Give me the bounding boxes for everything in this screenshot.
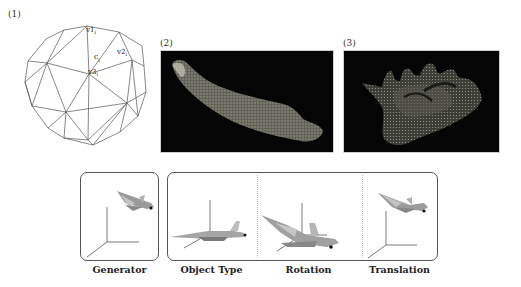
generator-box <box>80 172 159 261</box>
bone-point-cloud <box>161 51 334 153</box>
generator-plane-with-axes <box>81 173 160 262</box>
geodesic-sphere-mesh <box>20 20 152 152</box>
center-label-c: ci <box>94 52 100 63</box>
scan-point-cloud <box>344 51 500 153</box>
caption-object-type: Object Type <box>167 264 256 275</box>
vertex-label-v1: v1i <box>86 26 96 35</box>
caption-translation: Translation <box>361 264 438 275</box>
vertex-label-v2: v2i <box>117 48 127 57</box>
panel-3-label: (3) <box>343 38 356 48</box>
caption-generator: Generator <box>80 264 159 275</box>
scan-panel <box>343 50 500 153</box>
caption-rotation: Rotation <box>256 264 361 275</box>
vertex-label-v3: v3i <box>88 68 98 77</box>
translation-plane-with-axes <box>362 173 439 262</box>
transform-box <box>167 172 438 261</box>
object-type-plane-with-axes <box>168 173 257 262</box>
rotation-plane-with-axes <box>257 173 362 262</box>
panel-2-label: (2) <box>160 38 173 48</box>
bone-scan-panel <box>160 50 334 153</box>
panel-1-label: (1) <box>8 9 21 19</box>
